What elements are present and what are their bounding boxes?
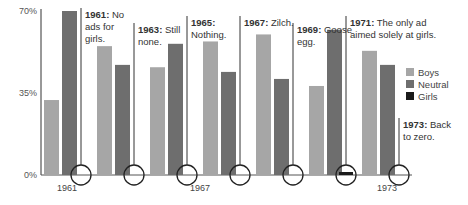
- bar-chart: 0%35%70%196119671973 1961: Noads forgirl…: [0, 0, 468, 205]
- annotation-line-text: Nothing.: [191, 29, 226, 40]
- bar-boys-1965: [150, 67, 165, 175]
- annotation-1969: 1969: Gooseegg.: [297, 24, 352, 47]
- annotation-1973: 1973: Backto zero.: [403, 119, 451, 142]
- annotation-year: 1965:: [191, 17, 215, 28]
- annotation-year: 1963:: [138, 24, 162, 35]
- bar-neutral-1963: [115, 65, 130, 175]
- annotation-line-text: 1961: No: [85, 9, 124, 20]
- legend-swatch-neutral: [406, 80, 414, 88]
- annotation-line-text: 1965:: [191, 17, 215, 28]
- legend-label-neutral: Neutral: [418, 79, 449, 90]
- annotation-line-text: aimed solely at girls.: [350, 29, 436, 40]
- annotation-1965: 1965:Nothing.: [191, 17, 226, 40]
- bar-neutral-1965: [168, 44, 183, 175]
- annotation-line-text: girls.: [85, 33, 105, 44]
- x-tick-label: 1973: [377, 183, 397, 193]
- annotation-1961: 1961: Noads forgirls.: [85, 9, 124, 44]
- annotation-line-text: none.: [138, 36, 162, 47]
- x-tick-label: 1967: [190, 183, 210, 193]
- bar-neutral-1967: [221, 72, 236, 175]
- annotation-1971: 1971: The only adaimed solely at girls.: [350, 17, 436, 40]
- annotation-year: 1967:: [244, 17, 268, 28]
- legend: BoysNeutralGirls: [406, 67, 449, 102]
- annotation-line-text: 1969: Goose: [297, 24, 352, 35]
- y-tick-label: 35%: [19, 88, 37, 98]
- annotation-line-text: 1963: Still: [138, 24, 180, 35]
- x-tick-label: 1961: [57, 183, 77, 193]
- legend-label-girls: Girls: [418, 91, 438, 102]
- annotation-1967: 1967: Zilch.: [244, 17, 294, 28]
- bar-boys-1969: [256, 34, 271, 175]
- annotation-line-text: 1973: Back: [403, 119, 451, 130]
- legend-label-boys: Boys: [418, 67, 439, 78]
- legend-swatch-girls: [406, 92, 414, 100]
- annotation-line-text: egg.: [297, 36, 316, 47]
- bar-boys-1971: [309, 86, 324, 175]
- y-tick-label: 70%: [19, 6, 37, 16]
- y-tick-label: 0%: [24, 170, 37, 180]
- bar-boys-1973: [362, 51, 377, 175]
- bar-boys-1967: [203, 41, 218, 175]
- annotation-line-text: 1971: The only ad: [350, 17, 426, 28]
- annotation-line-text: ads for: [85, 21, 114, 32]
- annotation-year: 1961:: [85, 9, 109, 20]
- bar-neutral-1961: [62, 11, 77, 175]
- annotation-year: 1971:: [350, 17, 374, 28]
- legend-swatch-boys: [406, 68, 414, 76]
- annotation-year: 1969:: [297, 24, 321, 35]
- annotation-1963: 1963: Stillnone.: [138, 24, 180, 47]
- bar-neutral-1973: [380, 65, 395, 175]
- bar-boys-1963: [97, 46, 112, 175]
- annotation-year: 1973:: [403, 119, 427, 130]
- annotation-line-text: to zero.: [403, 131, 435, 142]
- bar-neutral-1971: [327, 30, 342, 175]
- bar-neutral-1969: [274, 79, 289, 175]
- bar-girls-1971: [339, 172, 353, 175]
- annotation-line-text: 1967: Zilch.: [244, 17, 294, 28]
- bar-boys-1961: [44, 100, 59, 175]
